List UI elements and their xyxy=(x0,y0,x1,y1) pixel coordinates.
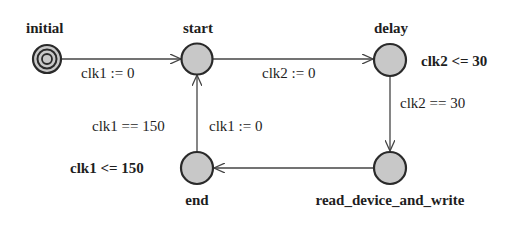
state-read-device-and-write[interactable] xyxy=(374,152,406,184)
state-label-read-device-and-write: read_device_and_write xyxy=(316,192,465,209)
state-end[interactable] xyxy=(181,152,213,184)
state-initial[interactable] xyxy=(33,45,61,73)
update-initial-to-start: clk1 := 0 xyxy=(81,65,134,82)
state-label-initial: initial xyxy=(26,20,64,37)
state-start[interactable] xyxy=(182,44,213,75)
guard-end-to-start: clk1 == 150 xyxy=(92,118,165,135)
state-label-start: start xyxy=(183,20,213,37)
guard-delay-to-read-device-and-write: clk2 == 30 xyxy=(400,95,465,112)
invariant-end: clk1 <= 150 xyxy=(70,160,144,177)
state-label-delay: delay xyxy=(374,20,408,37)
state-label-end: end xyxy=(185,192,208,209)
state-delay[interactable] xyxy=(374,44,406,76)
invariant-delay: clk2 <= 30 xyxy=(421,53,487,70)
update-end-to-start: clk1 := 0 xyxy=(209,118,262,135)
update-start-to-delay: clk2 := 0 xyxy=(262,65,315,82)
